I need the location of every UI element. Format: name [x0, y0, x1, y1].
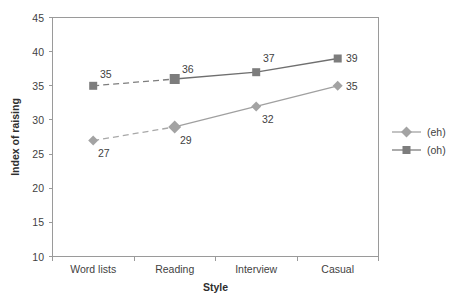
x-axis-tick-labels: Word lists Reading Interview Casual [70, 263, 354, 275]
legend-item-oh[interactable]: (oh) [392, 144, 446, 156]
series-eh-line [93, 86, 338, 141]
series-eh-markers [88, 81, 343, 146]
data-label: 37 [263, 52, 275, 64]
y-axis-tick-labels: 45 40 35 30 25 20 15 10 [32, 12, 44, 263]
x-axis-title: Style [203, 281, 228, 293]
x-tick-label: Word lists [70, 263, 116, 275]
legend-item-eh[interactable]: (eh) [392, 126, 446, 138]
y-tick-label: 15 [32, 216, 44, 228]
data-label: 39 [346, 52, 358, 64]
data-label: 29 [180, 134, 192, 146]
data-point-marker [168, 120, 181, 133]
diamond-marker-icon [401, 127, 412, 138]
series-eh-labels: 27 29 32 35 [98, 80, 358, 159]
square-marker-icon [403, 146, 411, 154]
data-label: 35 [346, 80, 358, 92]
data-point-marker [88, 136, 98, 146]
y-tick-label: 20 [32, 182, 44, 194]
data-label: 35 [100, 68, 112, 80]
series-oh-line [93, 59, 338, 86]
legend-label-eh: (eh) [427, 126, 446, 138]
y-tick-label: 35 [32, 80, 44, 92]
y-tick-label: 10 [32, 251, 44, 263]
data-point-marker [170, 74, 180, 84]
x-tick-label: Casual [321, 263, 354, 275]
data-label: 32 [262, 113, 274, 125]
y-tick-label: 40 [32, 46, 44, 58]
y-tick-label: 30 [32, 114, 44, 126]
legend-label-oh: (oh) [427, 144, 446, 156]
x-tick-label: Reading [155, 263, 194, 275]
data-point-marker [334, 55, 342, 63]
series-oh-labels: 35 36 37 39 [100, 52, 358, 80]
x-tick-label: Interview [235, 263, 277, 275]
data-point-marker [333, 81, 343, 91]
data-point-marker [251, 101, 261, 111]
y-tick-label: 25 [32, 148, 44, 160]
data-point-marker [252, 68, 260, 76]
y-axis-title: Index of raising [9, 98, 21, 176]
y-axis-ticks [49, 18, 53, 257]
line-chart: 45 40 35 30 25 20 15 10 Index of raising… [0, 0, 459, 303]
y-tick-label: 45 [32, 12, 44, 24]
x-axis-ticks [53, 257, 379, 261]
chart-legend: (eh) (oh) [392, 126, 446, 156]
series-oh-markers [89, 55, 342, 90]
data-label: 36 [182, 63, 194, 75]
chart-container: 45 40 35 30 25 20 15 10 Index of raising… [0, 0, 459, 303]
data-label: 27 [98, 147, 110, 159]
data-point-marker [89, 82, 97, 90]
